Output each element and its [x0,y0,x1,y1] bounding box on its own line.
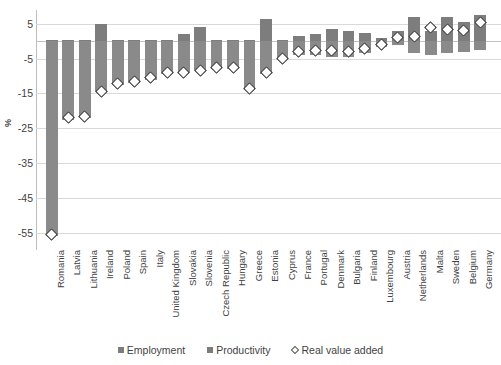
bar-segment-productivity[interactable] [145,40,157,42]
y-axis-tick-label: -25 [3,123,33,133]
bar-group[interactable] [392,10,404,250]
bar-group[interactable] [343,10,355,250]
bar-segment-productivity[interactable] [46,40,58,42]
bar-group[interactable] [211,10,223,250]
bar-segment-employment[interactable] [408,41,420,53]
bar-segment-productivity[interactable] [244,40,256,42]
bar-group[interactable] [425,10,437,250]
bar-segment-employment[interactable] [79,41,91,118]
x-axis-tick-label: Latvia [72,250,82,275]
bar-segment-productivity[interactable] [178,34,190,41]
chart-container: % 5-5-15-25-35-45-55 RomaniaLatviaLithua… [0,0,501,365]
x-axis-tick-label: Cyprus [287,250,297,280]
bar-group[interactable] [79,10,91,250]
bar-group[interactable] [408,10,420,250]
x-axis-tick-label: Finland [369,250,379,281]
legend-item-employment: Employment [118,344,185,356]
bar-segment-employment[interactable] [46,41,58,236]
bar-segment-productivity[interactable] [359,33,371,42]
legend-label-employment: Employment [127,344,185,356]
y-axis-tick-label: -45 [3,193,33,203]
bar-segment-productivity[interactable] [227,40,239,42]
bar-segment-employment[interactable] [441,41,453,53]
bar-group[interactable] [310,10,322,250]
bar-segment-productivity[interactable] [62,40,74,42]
y-axis-tick-label: 5 [3,19,33,29]
chart-legend: Employment Productivity Real value added [0,344,501,356]
x-axis-tick-label: Greece [254,250,264,281]
y-axis-tick-labels: 5-5-15-25-35-45-55 [0,0,33,250]
legend-item-real-value-added: Real value added [292,344,383,356]
x-axis-tick-label: Italy [155,250,165,267]
bar-group[interactable] [458,10,470,250]
x-axis-tick-label: Romania [56,250,66,288]
bar-group[interactable] [244,10,256,250]
bar-segment-employment[interactable] [458,41,470,51]
real-value-added-marker-icon [291,346,299,354]
bar-group[interactable] [112,10,124,250]
bar-segment-productivity[interactable] [194,27,206,41]
legend-item-productivity: Productivity [207,344,270,356]
x-axis-tick-label: Poland [122,250,132,280]
bar-group[interactable] [145,10,157,250]
productivity-swatch-icon [207,347,213,353]
bar-segment-employment[interactable] [425,41,437,55]
bar-segment-productivity[interactable] [343,31,355,41]
bar-group[interactable] [227,10,239,250]
bar-segment-employment[interactable] [62,41,74,119]
bar-group[interactable] [178,10,190,250]
bar-segment-productivity[interactable] [211,40,223,42]
x-axis-tick-label: Portugal [319,250,329,285]
bars-layer [36,10,501,250]
bar-group[interactable] [326,10,338,250]
bar-group[interactable] [62,10,74,250]
x-axis-tick-label: Netherlands [418,250,428,301]
bar-segment-productivity[interactable] [260,19,272,42]
bar-group[interactable] [293,10,305,250]
x-axis-tick-label: Spain [138,250,148,274]
x-axis-tick-label: Belgium [468,250,478,284]
plot-area [36,10,501,250]
x-axis-tick-label: Ireland [105,250,115,279]
bar-segment-productivity[interactable] [112,40,124,42]
x-axis-tick-label: France [303,250,313,280]
bar-group[interactable] [161,10,173,250]
bar-group[interactable] [46,10,58,250]
bar-segment-productivity[interactable] [277,40,289,42]
legend-label-productivity: Productivity [216,344,270,356]
y-axis-tick-label: -35 [3,158,33,168]
x-axis-tick-label: Austria [402,250,412,280]
x-axis-tick-label: Denmark [336,250,346,289]
bar-group[interactable] [260,10,272,250]
bar-segment-productivity[interactable] [310,34,322,41]
bar-segment-productivity[interactable] [293,36,305,41]
y-axis-tick-label: -55 [3,228,33,238]
x-axis-tick-label: Lithuania [89,250,99,289]
bar-segment-productivity[interactable] [79,40,91,42]
legend-label-real-value-added: Real value added [301,344,383,356]
bar-group[interactable] [277,10,289,250]
bar-group[interactable] [359,10,371,250]
bar-segment-productivity[interactable] [161,40,173,42]
bar-group[interactable] [194,10,206,250]
bar-group[interactable] [474,10,486,250]
bar-group[interactable] [376,10,388,250]
bar-segment-employment[interactable] [474,41,486,50]
x-axis-tick-label: Estonia [270,250,280,282]
bar-group[interactable] [128,10,140,250]
x-axis-tick-label: Luxembourg [385,250,395,303]
bar-segment-productivity[interactable] [95,24,107,41]
employment-swatch-icon [118,347,124,353]
bar-group[interactable] [441,10,453,250]
x-axis-tick-labels: RomaniaLatviaLithuaniaIrelandPolandSpain… [36,250,501,338]
x-axis-tick-label: Germany [484,250,494,289]
x-axis-tick-label: Bulgaria [352,250,362,285]
x-axis-tick-label: Czech Republic [221,250,231,317]
x-axis-tick-label: United Kingdom [171,250,181,318]
bar-segment-productivity[interactable] [326,29,338,41]
x-axis-tick-label: Malta [435,250,445,273]
x-axis-tick-label: Sweden [451,250,461,284]
bar-group[interactable] [95,10,107,250]
bar-segment-productivity[interactable] [128,40,140,42]
y-axis-tick-label: -15 [3,88,33,98]
